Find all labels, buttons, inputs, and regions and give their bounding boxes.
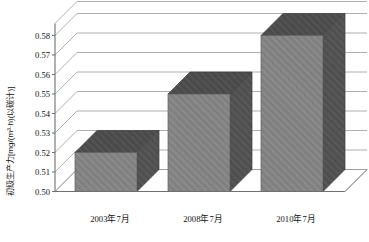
- bar-chart-3d: 0.58 0.57 0.56 0.55 0.54 0.53 0.52 0.51 …: [0, 0, 369, 242]
- bar-2008[interactable]: [168, 72, 252, 192]
- y-tick-label: 0.55: [35, 89, 50, 99]
- y-tick-labels-group: 0.58 0.57 0.56 0.55 0.54 0.53 0.52 0.51 …: [35, 31, 51, 197]
- bar-2003[interactable]: [75, 131, 159, 192]
- x-tick-label-2008: 2008年7月: [183, 213, 222, 224]
- y-tick-label: 0.57: [35, 50, 51, 60]
- bar-front-face: [75, 153, 137, 192]
- y-tick-label: 0.51: [35, 167, 50, 177]
- y-tick-label: 0.58: [35, 31, 50, 41]
- y-tick-label: 0.56: [35, 70, 51, 80]
- y-tick-label: 0.50: [35, 187, 50, 197]
- bar-side-face: [323, 14, 345, 192]
- y-tick-label: 0.53: [35, 128, 50, 138]
- y-axis-title: 初级生产力[mg/(m³·h)(以碳计)]: [5, 87, 15, 196]
- bar-front-face: [261, 36, 323, 192]
- bar-front-face: [168, 94, 230, 192]
- bar-2010[interactable]: [261, 14, 345, 192]
- x-tick-labels-group: 2003年7月 2008年7月 2010年7月: [90, 213, 315, 224]
- x-tick-label-2010: 2010年7月: [276, 213, 315, 224]
- y-tick-label: 0.52: [35, 148, 50, 158]
- x-tick-label-2003: 2003年7月: [90, 213, 129, 224]
- chart-container: 0.58 0.57 0.56 0.55 0.54 0.53 0.52 0.51 …: [0, 0, 369, 242]
- y-tick-label: 0.54: [35, 109, 51, 119]
